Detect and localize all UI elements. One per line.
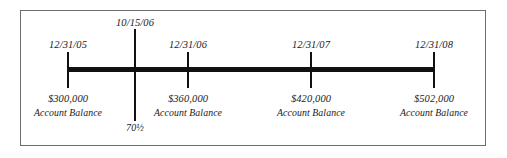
- date-label-10-15-06: 10/15/06: [116, 17, 154, 29]
- timeline-figure: 12/31/05 10/15/06 12/31/06 12/31/07 12/3…: [0, 0, 507, 158]
- tick-12-31-08: [433, 52, 435, 88]
- tick-12-31-06: [187, 52, 189, 88]
- amount-label-12-31-05: $300,000: [48, 93, 88, 105]
- date-label-12-31-08: 12/31/08: [415, 39, 453, 51]
- balance-caption-12-31-06: Account Balance: [154, 107, 222, 119]
- timeline-canvas: 12/31/05 10/15/06 12/31/06 12/31/07 12/3…: [0, 0, 507, 158]
- age-note-label: 70½: [126, 122, 144, 134]
- tick-12-31-07: [310, 52, 312, 88]
- amount-label-12-31-06: $360,000: [168, 93, 208, 105]
- timeline-axis: [68, 67, 435, 72]
- tick-10-15-06: [134, 29, 136, 121]
- balance-caption-12-31-05: Account Balance: [34, 107, 102, 119]
- balance-caption-12-31-07: Account Balance: [277, 107, 345, 119]
- date-label-12-31-05: 12/31/05: [49, 39, 87, 51]
- balance-caption-12-31-08: Account Balance: [400, 107, 468, 119]
- tick-12-31-05: [67, 52, 69, 88]
- amount-label-12-31-08: $502,000: [414, 93, 454, 105]
- amount-label-12-31-07: $420,000: [291, 93, 331, 105]
- date-label-12-31-06: 12/31/06: [169, 39, 207, 51]
- date-label-12-31-07: 12/31/07: [292, 39, 330, 51]
